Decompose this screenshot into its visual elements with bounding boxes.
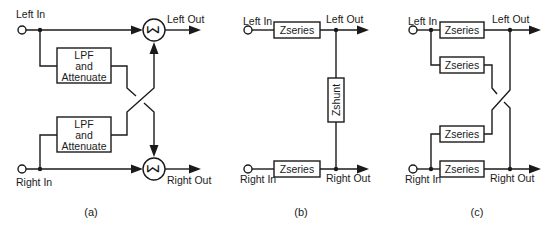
arrow-right-icon xyxy=(131,26,143,35)
arrow-right-icon xyxy=(357,26,369,35)
wire xyxy=(111,66,136,96)
right-in-port-icon xyxy=(244,165,252,173)
right-out-label: Right Out xyxy=(167,174,211,186)
arrow-up-icon xyxy=(150,42,159,54)
panel-caption: (c) xyxy=(471,206,484,218)
zseries-block-4: Zseries xyxy=(440,161,484,177)
arrow-down-icon xyxy=(150,145,159,157)
left-in-label: Left In xyxy=(408,15,437,27)
arrow-right-icon xyxy=(131,165,143,174)
wire xyxy=(144,103,154,150)
block-label: Zseries xyxy=(445,163,479,175)
wire xyxy=(484,30,510,134)
block-label: Zseries xyxy=(445,128,479,140)
wire xyxy=(40,135,57,169)
lpf-attenuate-block-bottom: LPF and Attenuate xyxy=(57,117,111,152)
sigma-icon: Σ xyxy=(145,164,163,173)
summing-junction-bottom: Σ xyxy=(143,158,165,180)
junction-dot xyxy=(334,167,338,171)
right-in-label: Right In xyxy=(240,173,276,185)
right-out-label: Right Out xyxy=(490,172,534,184)
zseries-block-right: Zseries xyxy=(274,161,320,177)
summing-junction-top: Σ xyxy=(143,19,165,41)
wire xyxy=(431,134,440,169)
right-out-label: Right Out xyxy=(326,172,370,184)
zseries-block-3: Zseries xyxy=(440,126,484,142)
right-in-port-icon xyxy=(409,165,417,173)
arrow-right-icon xyxy=(189,26,201,35)
panel-caption: (b) xyxy=(294,206,307,218)
wire xyxy=(40,30,57,66)
wire xyxy=(484,65,497,94)
left-in-label: Left In xyxy=(243,15,272,27)
block-label: Zseries xyxy=(445,24,479,36)
junction-dot xyxy=(508,167,512,171)
left-in-port-icon xyxy=(244,26,252,34)
right-in-label: Right In xyxy=(405,173,441,185)
panel-b: Left In Zseries Left Out Zshunt Right In… xyxy=(240,13,370,218)
left-in-port-icon xyxy=(18,26,26,34)
block-label: Zseries xyxy=(280,24,314,36)
arrow-right-icon xyxy=(529,26,541,35)
junction-dot xyxy=(429,167,433,171)
block-label: Zshunt xyxy=(330,84,342,116)
panel-c: Left In Zseries Left Out Zseries Zseries… xyxy=(405,13,541,218)
lpf-attenuate-block-top: LPF and Attenuate xyxy=(57,48,111,83)
block-label: Zseries xyxy=(280,163,314,175)
left-in-label: Left In xyxy=(16,8,45,20)
left-out-label: Left Out xyxy=(492,13,529,25)
right-in-label: Right In xyxy=(16,176,52,188)
sigma-icon: Σ xyxy=(145,25,163,34)
block-label: Attenuate xyxy=(62,140,107,152)
wire xyxy=(504,102,510,169)
wire xyxy=(431,30,440,65)
right-in-port-icon xyxy=(18,165,26,173)
crossfeed-circuit-diagrams: Left In Right In LPF and Attenuate LPF a… xyxy=(0,0,556,230)
block-label: Attenuate xyxy=(62,71,107,83)
left-out-label: Left Out xyxy=(167,13,204,25)
left-out-label: Left Out xyxy=(326,13,363,25)
left-in-port-icon xyxy=(409,26,417,34)
zseries-block-2: Zseries xyxy=(440,57,484,73)
zshunt-block: Zshunt xyxy=(328,78,344,122)
panel-caption: (a) xyxy=(84,206,97,218)
arrow-right-icon xyxy=(189,165,201,174)
zseries-block-left: Zseries xyxy=(274,22,320,38)
block-label: Zseries xyxy=(445,59,479,71)
zseries-block-1: Zseries xyxy=(440,22,484,38)
panel-a: Left In Right In LPF and Attenuate LPF a… xyxy=(16,8,211,218)
